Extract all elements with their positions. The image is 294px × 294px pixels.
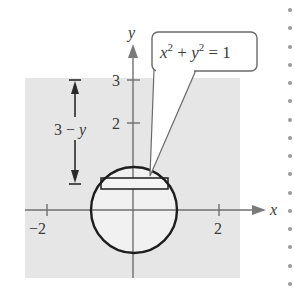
y-tick-label-2: 2: [112, 115, 120, 132]
y-tick-label-3: 3: [112, 72, 120, 89]
x-axis-arrow-icon: [252, 205, 266, 215]
y-axis-arrow-icon: [128, 44, 138, 58]
figure-canvas: x y −2 2 2 3 3 − y x2 + y2: [0, 0, 294, 294]
dimension-label: 3 − y: [54, 121, 87, 139]
x-tick-label-2: 2: [214, 220, 222, 237]
x-tick-label-neg2: −2: [29, 220, 46, 237]
circle-revolution-figure: x y −2 2 2 3 3 − y x2 + y2: [0, 0, 294, 294]
y-axis-label: y: [126, 24, 136, 42]
page-edge-dots: [288, 8, 292, 286]
x-axis-label: x: [269, 201, 277, 218]
representative-rectangle: [101, 178, 168, 189]
